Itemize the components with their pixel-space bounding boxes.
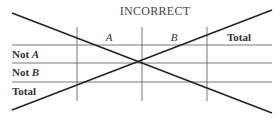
row-prefix: Not [12, 66, 32, 78]
row-var: A [32, 48, 39, 60]
row-prefix: Not [12, 48, 32, 60]
col-header-total: Total [207, 31, 271, 43]
row-header-total: Total [12, 85, 36, 97]
col-header-a: A [77, 31, 141, 43]
col-header-b: B [142, 31, 206, 43]
table-grid [0, 0, 280, 120]
row-prefix: Total [12, 85, 36, 97]
row-var: B [32, 66, 39, 78]
row-header-not-b: Not B [12, 66, 39, 78]
row-header-not-a: Not A [12, 48, 39, 60]
